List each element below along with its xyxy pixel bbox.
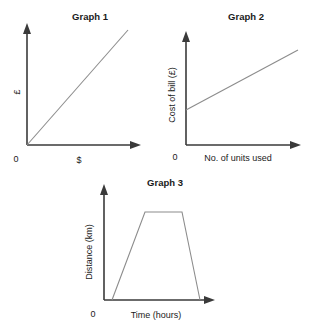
graph-2-panel: Graph 2 Cost of bill (£) No. of units us… [160,0,314,170]
graph-3-origin-label: 0 [90,309,95,319]
graph-1-x-axis-arrow-icon [130,141,141,149]
graph-3-panel: Graph 3 Distance (km) Time (hours) 0 [60,170,260,327]
graph-3-title: Graph 3 [147,177,183,188]
graph-1-y-axis-label: £ [12,89,22,94]
graph-3-y-axis-arrow-icon [100,184,108,195]
graph-3-x-axis-arrow-icon [204,296,215,304]
graph-1-x-axis-label: $ [76,155,81,165]
graph-2-y-axis-arrow-icon [182,31,190,42]
graph-2-title: Graph 2 [228,11,264,22]
graph-2-data-line [186,50,298,110]
graph-1-y-axis-arrow-icon [23,23,31,34]
graph-2-y-axis-label: Cost of bill (£) [167,67,177,123]
graph-1-panel: Graph 1 £ $ 0 [0,0,160,170]
graph-2-x-axis-label: No. of units used [204,153,272,163]
graph-1-title: Graph 1 [72,11,109,22]
graph-3-y-axis-label: Distance (km) [84,224,94,280]
graph-3-data-line [112,212,200,300]
graph-3-x-axis-label: Time (hours) [131,310,182,320]
graph-1-data-line [27,30,128,145]
graph-1-origin-label: 0 [13,154,18,164]
graph-2-origin-label: 0 [172,152,177,162]
graphs-figure: Graph 1 £ $ 0 Graph 2 Cost of bill (£) N… [0,0,314,327]
graph-2-x-axis-arrow-icon [290,141,301,149]
